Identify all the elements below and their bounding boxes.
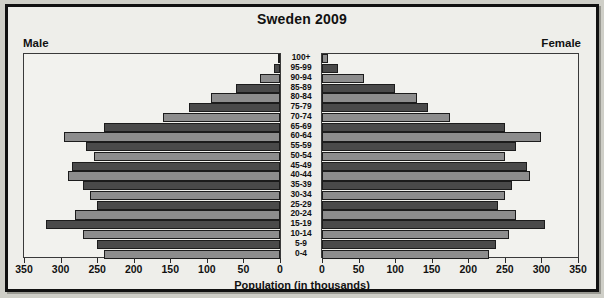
female-x-axis: 050100150200250300350	[321, 258, 579, 267]
bar-female-70-74	[322, 113, 450, 122]
x-tick-label-200: 200	[460, 263, 478, 275]
bar-female-95-99	[322, 64, 338, 73]
bar-female-40-44	[322, 171, 530, 180]
x-tick-label-350: 350	[569, 263, 587, 275]
bar-male-30-34	[90, 191, 280, 200]
bar-male-45-49	[72, 162, 280, 171]
bar-male-15-19	[46, 220, 280, 229]
bar-female-20-24	[322, 210, 516, 219]
x-tick-label-0: 0	[319, 263, 325, 275]
bar-female-100+	[322, 54, 328, 63]
bar-female-90-94	[322, 74, 364, 83]
age-label-5-9: 5-9	[281, 239, 321, 248]
age-label-0-4: 0-4	[281, 249, 321, 258]
x-tick-label-100: 100	[198, 263, 216, 275]
bar-female-75-79	[322, 103, 428, 112]
bar-male-95-99	[274, 64, 280, 73]
x-tick-label-200: 200	[125, 263, 143, 275]
bar-female-55-59	[322, 142, 516, 151]
x-tick-label-50: 50	[353, 263, 365, 275]
x-tick-label-350: 350	[15, 263, 33, 275]
page-title: Sweden 2009	[8, 11, 596, 27]
male-plot-area	[23, 53, 281, 258]
bar-male-65-69	[104, 123, 280, 132]
x-tick-label-150: 150	[423, 263, 441, 275]
bar-male-90-94	[260, 74, 280, 83]
bar-female-80-84	[322, 93, 417, 102]
age-group-axis: 100+95-9990-9485-8980-8475-7970-7465-696…	[281, 53, 321, 258]
bar-male-40-44	[68, 171, 280, 180]
female-legend-label: Female	[541, 37, 581, 49]
male-legend-label: Male	[23, 37, 49, 49]
x-tick-label-300: 300	[52, 263, 70, 275]
bar-male-10-14	[83, 230, 280, 239]
female-plot-area	[321, 53, 579, 258]
x-tick-label-250: 250	[496, 263, 514, 275]
x-tick-label-0: 0	[277, 263, 283, 275]
male-x-axis: 350300250200150100500	[23, 258, 281, 267]
bar-female-10-14	[322, 230, 509, 239]
x-tick-label-100: 100	[386, 263, 404, 275]
bar-male-55-59	[86, 142, 280, 151]
x-axis-title: Population (in thousands)	[8, 279, 596, 291]
age-label-50-54: 50-54	[281, 151, 321, 160]
age-label-30-34: 30-34	[281, 190, 321, 199]
bar-male-85-89	[236, 84, 280, 93]
bar-male-20-24	[75, 210, 280, 219]
bar-female-5-9	[322, 240, 496, 249]
bar-female-15-19	[322, 220, 545, 229]
chart-frame: Sweden 2009 Male Female 100+95-9990-9485…	[0, 0, 604, 298]
bar-male-50-54	[94, 152, 281, 161]
bar-female-30-34	[322, 191, 505, 200]
age-label-95-99: 95-99	[281, 63, 321, 72]
age-label-70-74: 70-74	[281, 112, 321, 121]
bar-female-85-89	[322, 84, 395, 93]
age-label-35-39: 35-39	[281, 180, 321, 189]
bar-male-60-64	[64, 132, 280, 141]
bar-male-25-29	[97, 201, 280, 210]
bar-male-75-79	[189, 103, 280, 112]
bar-female-60-64	[322, 132, 541, 141]
age-label-90-94: 90-94	[281, 73, 321, 82]
chart-panel: Sweden 2009 Male Female 100+95-9990-9485…	[5, 4, 599, 292]
x-tick-label-300: 300	[533, 263, 551, 275]
bar-female-50-54	[322, 152, 505, 161]
bar-female-35-39	[322, 181, 512, 190]
age-label-10-14: 10-14	[281, 229, 321, 238]
age-label-55-59: 55-59	[281, 141, 321, 150]
bar-female-65-69	[322, 123, 505, 132]
bar-male-100+	[278, 54, 280, 63]
bar-female-25-29	[322, 201, 498, 210]
bar-female-45-49	[322, 162, 527, 171]
bar-male-70-74	[163, 113, 280, 122]
x-tick-label-250: 250	[88, 263, 106, 275]
bar-male-35-39	[83, 181, 280, 190]
age-label-75-79: 75-79	[281, 102, 321, 111]
bar-male-5-9	[97, 240, 280, 249]
x-tick-label-150: 150	[162, 263, 180, 275]
x-tick-label-50: 50	[238, 263, 250, 275]
bar-male-80-84	[211, 93, 280, 102]
